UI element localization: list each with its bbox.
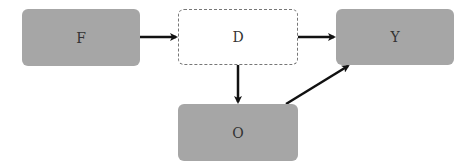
node-o: O <box>178 104 298 161</box>
node-y: Y <box>336 9 454 65</box>
edge-o-y <box>286 66 348 104</box>
node-o-label: O <box>232 125 243 141</box>
node-y-label: Y <box>390 29 399 45</box>
node-d-label: D <box>232 29 243 45</box>
node-d: D <box>178 9 298 65</box>
node-f: F <box>22 9 140 66</box>
node-f-label: F <box>76 30 86 46</box>
